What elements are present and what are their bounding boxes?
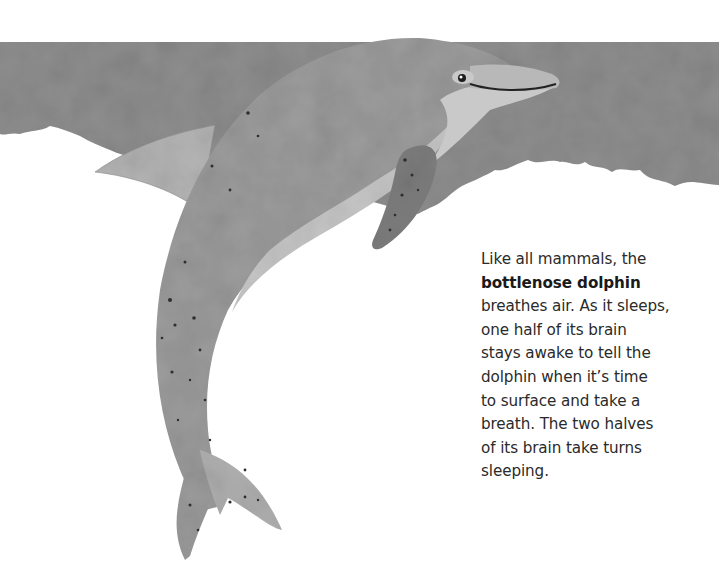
- caption-line: to surface and take a: [481, 390, 719, 414]
- caption-line: stays awake to tell the: [481, 342, 719, 366]
- caption-line: sleeping.: [481, 460, 719, 484]
- bold-term: bottlenose dolphin: [481, 274, 641, 292]
- caption-line: of its brain take turns: [481, 437, 719, 461]
- caption-line: breathes air. As it sleeps,: [481, 295, 719, 319]
- caption-text: Like all mammals, the bottlenose dolphin…: [481, 248, 719, 484]
- tail-fluke-right: [200, 450, 282, 530]
- caption-line: breath. The two halves: [481, 413, 719, 437]
- caption-line: Like all mammals, the: [481, 248, 719, 272]
- caption-line: dolphin when it’s time: [481, 366, 719, 390]
- caption-line: one half of its brain: [481, 319, 719, 343]
- caption-line-bold: bottlenose dolphin: [481, 272, 719, 296]
